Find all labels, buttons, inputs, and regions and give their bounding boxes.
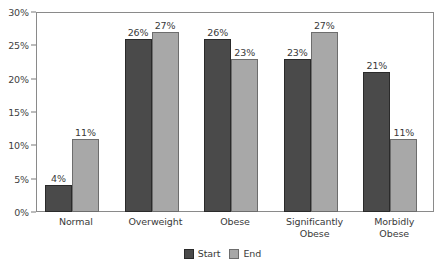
bar-value-label: 27% [314,20,335,31]
bar-start[interactable]: 26% [125,39,152,212]
x-axis-category-label: MorbidlyObese [354,216,434,239]
y-axis-tick-label: 25% [8,40,29,51]
bar-value-label: 26% [207,27,228,38]
bar-value-label: 11% [393,127,414,138]
legend-item-start[interactable]: Start [184,248,221,259]
bar-end[interactable]: 27% [152,32,179,212]
x-axis-category-label: Obese [195,216,275,228]
bar-start[interactable]: 26% [204,39,231,212]
bar-value-label: 4% [51,173,66,184]
legend-item-end[interactable]: End [229,248,261,259]
y-axis-tick-label: 20% [8,73,29,84]
bars-layer: 4%11%26%27%26%23%23%27%21%11% [36,12,434,212]
x-axis-category-label-line: Significantly [275,216,355,228]
bar-group: 4%11% [36,12,116,212]
bar-value-label: 23% [234,47,255,58]
x-axis-category-label-line: Morbidly [354,216,434,228]
y-axis-tick-label: 0% [14,207,29,218]
bar-value-label: 23% [287,47,308,58]
y-axis: 0%5%10%15%20%25%30% [0,0,36,269]
x-axis-category-label-line: Obese [354,228,434,240]
y-axis-tick-label: 15% [8,107,29,118]
bar-start[interactable]: 4% [45,185,72,212]
legend-label: End [243,248,261,259]
x-axis-category-label-line: Obese [195,216,275,228]
bar-start[interactable]: 23% [284,59,311,212]
start-color-swatch [184,249,194,259]
bar-value-label: 27% [155,20,176,31]
grouped-bar-chart: 0%5%10%15%20%25%30% 4%11%26%27%26%23%23%… [0,0,445,269]
bar-group: 23%27% [275,12,355,212]
x-axis: NormalOverweightObeseSignificantlyObeseM… [36,214,434,252]
y-axis-tick-label: 10% [8,140,29,151]
x-axis-category-label: Normal [36,216,116,228]
x-axis-category-label: Overweight [116,216,196,228]
bar-end[interactable]: 23% [231,59,258,212]
bar-group: 26%27% [116,12,196,212]
y-axis-tick-label: 30% [8,7,29,18]
x-axis-category-label-line: Obese [275,228,355,240]
bar-value-label: 21% [366,60,387,71]
bar-end[interactable]: 27% [311,32,338,212]
x-axis-category-label-line: Overweight [116,216,196,228]
bar-group: 26%23% [195,12,275,212]
bar-end[interactable]: 11% [390,139,417,212]
x-axis-category-label-line: Normal [36,216,116,228]
bar-start[interactable]: 21% [363,72,390,212]
end-color-swatch [229,249,239,259]
y-axis-tick-label: 5% [14,173,29,184]
bar-value-label: 26% [128,27,149,38]
legend-label: Start [198,248,221,259]
x-axis-category-label: SignificantlyObese [275,216,355,239]
bar-value-label: 11% [75,127,96,138]
bar-group: 21%11% [354,12,434,212]
chart-legend: StartEnd [0,248,445,259]
bar-end[interactable]: 11% [72,139,99,212]
